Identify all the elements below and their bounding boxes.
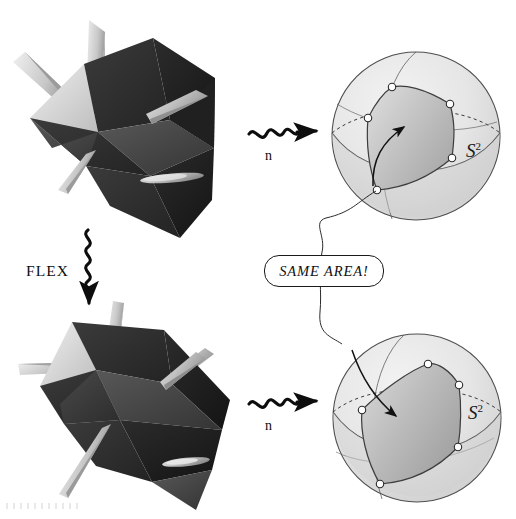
- face-mid-top: [98, 120, 214, 176]
- sphere-top-meridian-a: [381, 52, 416, 219]
- face-dark-f-top: [170, 78, 215, 148]
- gauss-polygon-top-vertices: [364, 83, 455, 193]
- face-dark-d-bottom: [120, 420, 222, 482]
- flex-squiggle-arrow: [86, 230, 91, 303]
- face-dark-a-top: [84, 38, 170, 132]
- sphere-top: [332, 52, 500, 220]
- same-area-label: SAME AREA!: [279, 263, 369, 280]
- sphere-label-top-exponent: 2: [476, 140, 482, 152]
- gauss-polygon-bottom: [362, 364, 461, 484]
- figure-artwork: [0, 0, 516, 519]
- gauss-squiggle-arrow-bottom: [249, 399, 316, 407]
- face-light-bottom: [40, 322, 96, 404]
- sphere-label-bottom-exponent: 2: [478, 402, 484, 414]
- gauss-polygon-bottom-vertices: [358, 360, 462, 487]
- sphere-label-top: S2: [466, 140, 481, 162]
- face-dark-c-top: [30, 118, 150, 176]
- face-mid-b-top: [30, 118, 98, 166]
- same-area-callout: SAME AREA!: [264, 255, 384, 287]
- sphere-bottom-meridian-b: [336, 438, 494, 463]
- sphere-label-bottom: S2: [468, 402, 483, 424]
- flex-label: FLEX: [26, 262, 69, 280]
- sphere-top-equator-back: [332, 110, 500, 133]
- polyhedron-bottom: [18, 301, 230, 510]
- polyhedron-bottom-spikes-front: [59, 352, 210, 498]
- sphere-bottom-meridian-a: [372, 335, 404, 499]
- polyhedron-top-spikes-front: [58, 90, 208, 194]
- face-mid-bottom: [96, 370, 222, 430]
- gauss-map-label-top: n: [265, 148, 272, 164]
- face-dark-e-top: [86, 166, 180, 238]
- sphere-bottom-lower-shading: [333, 412, 501, 496]
- sphere-top-meridian-b: [337, 104, 497, 130]
- face-dark-c-bottom: [40, 370, 120, 424]
- polyhedron-top-spikes-back: [13, 20, 196, 120]
- figure-root: FLEX n n SAME AREA! S2 S2: [0, 0, 516, 519]
- face-mid-b-bottom: [152, 470, 212, 510]
- polyhedron-bottom-spikes-back: [18, 301, 214, 386]
- face-dark-e-bottom: [64, 420, 152, 482]
- gauss-polygon-top: [367, 86, 454, 190]
- sphere-label-bottom-base: S: [468, 402, 478, 423]
- gauss-squiggle-arrow-top: [249, 129, 316, 137]
- face-dark-a-bottom: [72, 322, 172, 384]
- polyhedron-top: [13, 20, 215, 238]
- sphere-label-top-base: S: [466, 140, 476, 161]
- sphere-bottom-normal-arrow: [352, 350, 396, 416]
- face-light-top: [30, 64, 98, 148]
- face-dark-b-bottom: [164, 330, 230, 430]
- sphere-top-outline: [332, 52, 500, 220]
- face-dark-b-top: [153, 38, 215, 148]
- gauss-map-label-bottom: n: [265, 418, 272, 434]
- face-dark-d-top: [150, 148, 214, 238]
- scan-artifact: [6, 503, 80, 509]
- face-mid-c-bottom: [60, 370, 120, 424]
- sphere-top-normal-arrow: [373, 127, 404, 186]
